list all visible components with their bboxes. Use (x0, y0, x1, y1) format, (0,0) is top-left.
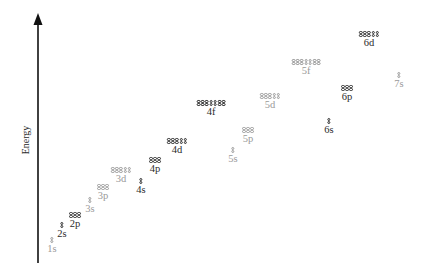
subshell-2p: 2p (69, 212, 81, 229)
subshell-4s: 4s (136, 178, 145, 195)
orbital-circle-pair-icon (359, 31, 363, 37)
subshell-6s: 6s (324, 118, 333, 135)
orbital-circle-pair-icon (128, 167, 132, 173)
subshell-3p: 3p (97, 184, 109, 201)
orbital-circle-pair-icon (313, 59, 317, 65)
subshell-label: 4p (150, 164, 161, 174)
orbital-circle-pair-icon (292, 59, 296, 65)
subshell-label: 2p (70, 219, 81, 229)
subshell-4f: 4f (197, 100, 226, 117)
subshell-label: 5s (228, 154, 237, 164)
subshell-7s: 7s (394, 72, 403, 89)
subshell-label: 5p (243, 134, 254, 144)
orbital-circle-pair-icon (376, 31, 380, 37)
subshell-2s: 2s (57, 222, 66, 239)
subshell-label: 6p (342, 92, 353, 102)
subshell-label: 5f (302, 66, 311, 76)
subshell-label: 6s (324, 125, 333, 135)
energy-axis-label: Energy (20, 126, 31, 155)
subshell-5f: 5f (292, 59, 321, 76)
subshell-label: 5d (265, 100, 276, 110)
subshell-4d: 4d (167, 138, 187, 155)
subshell-label: 1s (47, 244, 56, 254)
orbital-circle-pair-icon (222, 100, 226, 106)
subshell-1s: 1s (47, 237, 56, 254)
subshell-3s: 3s (85, 197, 94, 214)
orbital-circle-pair-icon (184, 138, 188, 144)
orbital-circle-pair-icon (277, 93, 281, 99)
orbital-circle-pair-icon (197, 100, 201, 106)
subshell-label: 4d (172, 145, 183, 155)
subshell-5d: 5d (260, 93, 280, 110)
orbital-circle-pair-icon (260, 93, 264, 99)
subshell-label: 3s (85, 204, 94, 214)
subshell-label: 3d (116, 174, 127, 184)
subshell-label: 7s (394, 79, 403, 89)
orbital-circle-pair-icon (218, 100, 222, 106)
orbital-circle-pair-icon (111, 167, 115, 173)
orbital-circle-pair-icon (201, 100, 205, 106)
subshell-label: 4s (136, 185, 145, 195)
subshell-label: 3p (98, 191, 109, 201)
subshell-5p: 5p (242, 127, 254, 144)
subshell-6p: 6p (341, 85, 353, 102)
subshell-3d: 3d (111, 167, 131, 184)
subshell-label: 2s (57, 229, 66, 239)
orbital-energy-diagram: Energy 1s2s2p3s3p3d4s4p4d4f5s5p5d5f6s6p6… (0, 0, 425, 278)
subshell-label: 6d (364, 38, 375, 48)
arrow-up-icon (34, 13, 43, 25)
orbital-circle-pair-icon (167, 138, 171, 144)
subshell-6d: 6d (359, 31, 379, 48)
subshell-5s: 5s (228, 147, 237, 164)
orbital-circle-pair-icon (296, 59, 300, 65)
subshell-label: 4f (207, 107, 216, 117)
orbital-circle-pair-icon (317, 59, 321, 65)
subshell-4p: 4p (149, 157, 161, 174)
